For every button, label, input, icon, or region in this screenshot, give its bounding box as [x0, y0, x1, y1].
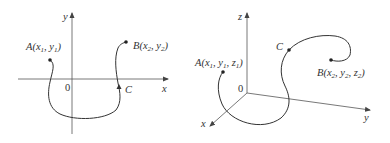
curve-path [49, 42, 126, 119]
point-c-label: C [125, 84, 133, 95]
space-curve-figure: z y x 0 A(x1, y1, z1) C B(x2, y2, z2) [194, 11, 370, 129]
x-axis-label: x [161, 83, 167, 94]
curve-path [218, 36, 350, 125]
plane-curve-figure: y x 0 A(x1, y1) B(x2, y2) C [18, 11, 169, 134]
z-axis-label: z [237, 11, 242, 22]
y-axis-label: y [363, 112, 369, 123]
y-axis-label: y [62, 11, 68, 22]
origin-label: 0 [65, 82, 70, 93]
diagram-canvas: y x 0 A(x1, y1) B(x2, y2) C z y x 0 [0, 0, 390, 143]
point-b-label: B(x2, y2) [133, 40, 169, 53]
point-b-dot [329, 58, 333, 62]
point-c-label: C [276, 41, 284, 52]
x-axis-label: x [200, 118, 206, 129]
point-a-dot [48, 58, 52, 62]
y-axis [247, 93, 370, 110]
point-a-label: A(x1, y1) [25, 41, 62, 54]
direction-arrow-icon [117, 84, 122, 89]
point-b-label: B(x2, y2, z2) [317, 67, 365, 80]
origin-label: 0 [238, 83, 243, 94]
point-c-dot [287, 48, 291, 52]
point-a-label: A(x1, y1, z1) [194, 57, 243, 70]
point-a-dot [221, 70, 225, 74]
point-b-dot [124, 40, 128, 44]
